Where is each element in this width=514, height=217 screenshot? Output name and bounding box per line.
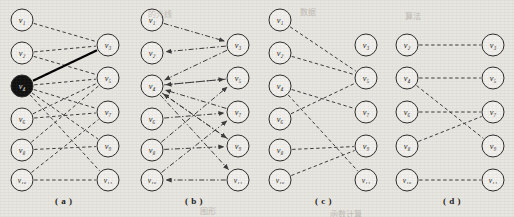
edge-b-v10-v7 <box>162 121 227 173</box>
node-c-v9[interactable]: v₉ <box>355 135 377 157</box>
node-label-v2: v₂ <box>149 49 156 58</box>
node-label-v7: v₇ <box>105 108 112 117</box>
node-a-v8[interactable]: v₈ <box>11 139 33 161</box>
node-a-v7[interactable]: v₇ <box>97 101 119 123</box>
bipartite-graph-figure: v₁v₂v₄v₆v₈v₁₀v₃v₅v₇v₉v₁₁v₁v₂v₄v₆v₈v₁₀v₃v… <box>0 0 514 217</box>
edge-a-v10-v7 <box>32 120 99 173</box>
node-label-v11: v₁₁ <box>362 176 371 185</box>
node-label-v4: v₄ <box>149 82 156 91</box>
node-label-v11: v₁₁ <box>489 176 498 185</box>
node-label-v4: v₄ <box>404 74 411 83</box>
node-b-v1[interactable]: v₁ <box>141 9 163 31</box>
edge-a-v4-v11 <box>30 95 100 171</box>
node-d-v10[interactable]: v₁₀ <box>396 169 418 191</box>
node-label-v2: v₂ <box>277 49 284 58</box>
edge-c-v4-v7 <box>292 90 355 109</box>
panel-a-nodes: v₁v₂v₄v₆v₈v₁₀v₃v₅v₇v₉v₁₁ <box>11 9 119 191</box>
node-a-v10[interactable]: v₁₀ <box>11 169 33 191</box>
node-c-v8[interactable]: v₈ <box>269 139 291 161</box>
edge-a-v8-v9 <box>34 147 96 150</box>
node-b-v9[interactable]: v₉ <box>227 135 249 157</box>
panel-c: v₁v₂v₄v₆v₈v₁₀v₃v₅v₇v₉v₁₁ <box>269 9 377 191</box>
panel-d-edges <box>417 45 484 180</box>
panel-a-edges <box>30 23 100 180</box>
node-c-v4[interactable]: v₄ <box>269 75 291 97</box>
node-label-v8: v₈ <box>149 146 156 155</box>
node-label-v3: v₃ <box>490 41 497 50</box>
node-label-v6: v₆ <box>277 115 284 124</box>
edge-a-v4-v3 <box>33 50 97 81</box>
node-label-v11: v₁₁ <box>234 176 243 185</box>
node-label-v10: v₁₀ <box>18 176 27 185</box>
panel-b-nodes: v₁v₂v₄v₆v₈v₁₀v₃v₅v₇v₉v₁₁ <box>141 9 249 191</box>
edge-c-v1-v5 <box>290 27 356 71</box>
node-a-v1[interactable]: v₁ <box>11 9 33 31</box>
node-label-v8: v₈ <box>277 146 284 155</box>
node-label-v9: v₉ <box>235 142 242 151</box>
node-label-v3: v₃ <box>363 41 370 50</box>
edge-b-v3-v4 <box>165 50 227 80</box>
node-label-v6: v₆ <box>404 108 411 117</box>
node-label-v7: v₇ <box>235 108 242 117</box>
node-c-v3[interactable]: v₃ <box>355 34 377 56</box>
node-c-v2[interactable]: v₂ <box>269 42 291 64</box>
node-label-v10: v₁₀ <box>276 176 285 185</box>
node-d-v8[interactable]: v₈ <box>396 135 418 157</box>
node-label-v2: v₂ <box>404 41 411 50</box>
edge-c-v8-v9 <box>292 147 354 150</box>
node-label-v5: v₅ <box>105 74 112 83</box>
node-d-v7[interactable]: v₇ <box>482 101 504 123</box>
node-c-v6[interactable]: v₆ <box>269 108 291 130</box>
node-d-v11[interactable]: v₁₁ <box>482 169 504 191</box>
node-label-v9: v₉ <box>490 142 497 151</box>
panel-b: v₁v₂v₄v₆v₈v₁₀v₃v₅v₇v₉v₁₁ <box>141 9 249 191</box>
node-d-v9[interactable]: v₉ <box>482 135 504 157</box>
node-b-v6[interactable]: v₆ <box>141 108 163 130</box>
node-d-v3[interactable]: v₃ <box>482 34 504 56</box>
edge-d-v8-v7 <box>418 116 481 141</box>
edge-b-v3-v2 <box>166 46 226 52</box>
node-b-v7[interactable]: v₇ <box>227 101 249 123</box>
node-b-v4[interactable]: v₄ <box>141 75 163 97</box>
node-label-v5: v₅ <box>490 74 497 83</box>
node-label-v8: v₈ <box>404 142 411 151</box>
node-label-v1: v₁ <box>19 16 26 25</box>
node-label-v10: v₁₀ <box>148 176 157 185</box>
node-c-v1[interactable]: v₁ <box>269 9 291 31</box>
node-b-v10[interactable]: v₁₀ <box>141 169 163 191</box>
node-c-v7[interactable]: v₇ <box>355 101 377 123</box>
node-label-v3: v₃ <box>235 41 242 50</box>
node-label-v6: v₆ <box>19 115 26 124</box>
edge-a-v1-v3 <box>34 23 97 41</box>
node-a-v3[interactable]: v₃ <box>97 34 119 56</box>
node-a-v9[interactable]: v₉ <box>97 135 119 157</box>
node-label-v1: v₁ <box>277 16 284 25</box>
node-a-v11[interactable]: v₁₁ <box>97 169 119 191</box>
edge-c-v2-v5 <box>292 56 355 74</box>
node-a-v2[interactable]: v₂ <box>11 42 33 64</box>
node-a-v4[interactable]: v₄ <box>11 75 33 97</box>
edge-a-v4-v7 <box>34 90 97 109</box>
node-b-v3[interactable]: v₃ <box>227 34 249 56</box>
node-label-v7: v₇ <box>363 108 370 117</box>
node-c-v5[interactable]: v₅ <box>355 67 377 89</box>
node-b-v5[interactable]: v₅ <box>227 67 249 89</box>
edge-b-v6-v7 <box>164 113 224 118</box>
node-a-v6[interactable]: v₆ <box>11 108 33 130</box>
node-c-v11[interactable]: v₁₁ <box>355 169 377 191</box>
node-b-v2[interactable]: v₂ <box>141 42 163 64</box>
edge-c-v10-v9 <box>291 150 354 175</box>
edge-c-v4-v11 <box>288 95 358 171</box>
node-c-v10[interactable]: v₁₀ <box>269 169 291 191</box>
edge-a-v4-v5 <box>34 79 96 85</box>
node-d-v2[interactable]: v₂ <box>396 34 418 56</box>
node-label-v7: v₇ <box>490 108 497 117</box>
node-d-v4[interactable]: v₄ <box>396 67 418 89</box>
node-a-v5[interactable]: v₅ <box>97 67 119 89</box>
node-d-v5[interactable]: v₅ <box>482 67 504 89</box>
node-b-v8[interactable]: v₈ <box>141 139 163 161</box>
panel-c-nodes: v₁v₂v₄v₆v₈v₁₀v₃v₅v₇v₉v₁₁ <box>269 9 377 191</box>
edge-a-v2-v3 <box>34 46 96 52</box>
node-b-v11[interactable]: v₁₁ <box>227 169 249 191</box>
node-d-v6[interactable]: v₆ <box>396 101 418 123</box>
